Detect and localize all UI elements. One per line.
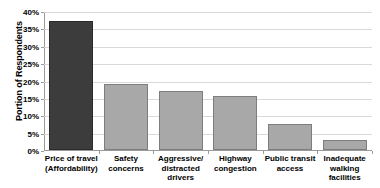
bar-slot (208, 11, 263, 150)
y-tick-label: 10% (23, 112, 39, 121)
x-axis-label-line: walking (317, 164, 372, 174)
x-axis-label-line: congestion (208, 164, 263, 174)
x-axis-label: Aggressive/distracteddrivers (153, 154, 208, 183)
bar-chart: Portion of Respondents 0%5%10%15%20%25%3… (0, 0, 380, 188)
y-tick-label: 30% (23, 42, 39, 51)
x-axis-label: Inadequatewalkingfacilities (317, 154, 372, 183)
y-tick-label: 25% (23, 60, 39, 69)
x-axis-label-line: drivers (153, 173, 208, 183)
bar-slot (153, 11, 208, 150)
x-axis-label-line: distracted (153, 164, 208, 174)
y-tick-label: 20% (23, 77, 39, 86)
x-axis-label: Safetyconcerns (99, 154, 154, 173)
bar-slot (263, 11, 318, 150)
y-tick-label: 35% (23, 25, 39, 34)
y-tick-label: 5% (27, 129, 39, 138)
x-axis-label: Highwaycongestion (208, 154, 263, 173)
x-axis-label-line: Aggressive/ (153, 154, 208, 164)
x-axis-labels: Price of travel(Affordability)Safetyconc… (44, 154, 372, 188)
x-tick-mark (372, 151, 373, 154)
bar[interactable] (159, 91, 203, 150)
x-axis-label-line: Inadequate (317, 154, 372, 164)
x-axis-label: Price of travel(Affordability) (44, 154, 99, 173)
y-tick-label: 40% (23, 8, 39, 17)
x-axis-label: Public transitaccess (263, 154, 318, 173)
bar[interactable] (268, 124, 312, 150)
bar-slot (99, 11, 154, 150)
bar-slot (317, 11, 372, 150)
x-axis-label-line: access (263, 164, 318, 174)
bar[interactable] (49, 21, 93, 150)
bar[interactable] (323, 140, 367, 150)
x-axis-label-line: (Affordability) (44, 164, 99, 174)
bar[interactable] (213, 96, 257, 150)
x-axis-label-line: concerns (99, 164, 154, 174)
x-axis-label-line: Public transit (263, 154, 318, 164)
y-tick-mark (41, 151, 44, 152)
x-axis-label-line: facilities (317, 173, 372, 183)
x-axis-label-line: Highway (208, 154, 263, 164)
x-axis-label-line: Price of travel (44, 154, 99, 164)
x-axis-label-line: Safety (99, 154, 154, 164)
plot-area: 0%5%10%15%20%25%30%35%40% (44, 12, 372, 151)
bars-group (44, 12, 372, 151)
y-tick-label: 15% (23, 94, 39, 103)
bar[interactable] (104, 84, 148, 150)
bar-slot (44, 11, 99, 150)
y-tick-label: 0% (27, 147, 39, 156)
